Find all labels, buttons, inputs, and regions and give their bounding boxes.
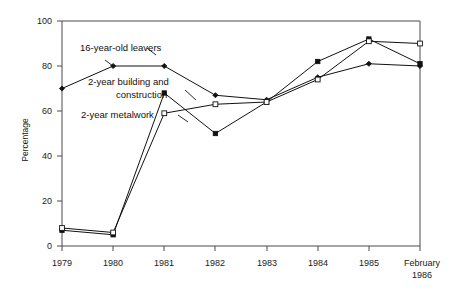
data-point — [366, 61, 371, 66]
x-tick-label-1986: 1986 — [412, 270, 432, 280]
annotation-16-year-old-leavers: 16-year-old leavers — [80, 42, 162, 53]
x-tick-label-1984: 1984 — [308, 258, 328, 268]
data-point — [111, 230, 116, 235]
x-tick-label-1981: 1981 — [154, 258, 174, 268]
data-point — [366, 39, 371, 44]
data-point — [162, 111, 167, 116]
series-line — [62, 41, 420, 232]
data-point — [264, 100, 269, 105]
y-tick-label-40: 40 — [42, 151, 52, 161]
y-tick-label-100: 100 — [37, 16, 52, 26]
data-point — [213, 131, 217, 135]
y-axis-ticks — [57, 21, 62, 246]
data-point — [316, 59, 320, 63]
y-tick-label-60: 60 — [42, 106, 52, 116]
line-chart: Percentage 100 80 60 40 20 0 — [0, 0, 462, 290]
annotation-metalwork: 2-year metalwork — [81, 109, 154, 120]
x-axis-ticks — [62, 246, 420, 251]
data-point — [315, 77, 320, 82]
series-layer — [59, 37, 422, 237]
x-tick-label-1979: 1979 — [52, 258, 72, 268]
x-tick-label-february: February — [404, 258, 441, 268]
data-point — [162, 63, 167, 68]
x-tick-label-1980: 1980 — [103, 258, 123, 268]
y-axis-title: Percentage — [20, 118, 30, 162]
data-point — [60, 226, 65, 231]
annotation-building-line1: 2-year building and — [88, 76, 169, 87]
y-tick-label-20: 20 — [42, 196, 52, 206]
x-tick-label-1983: 1983 — [257, 258, 277, 268]
data-point — [213, 93, 218, 98]
data-point — [418, 41, 423, 46]
chart-container: Percentage 100 80 60 40 20 0 — [0, 0, 462, 290]
data-point — [59, 86, 64, 91]
y-tick-label-80: 80 — [42, 61, 52, 71]
series-line — [62, 39, 420, 235]
data-point — [213, 102, 218, 107]
annotation-building-line2: construction — [116, 89, 167, 100]
y-tick-label-0: 0 — [47, 241, 52, 251]
x-tick-label-1982: 1982 — [205, 258, 225, 268]
x-tick-label-1985: 1985 — [359, 258, 379, 268]
data-point — [418, 62, 422, 66]
